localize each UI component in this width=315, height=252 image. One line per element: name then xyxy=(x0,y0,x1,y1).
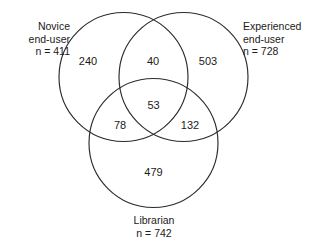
set-label-librarian: Librarian n = 742 xyxy=(113,214,195,239)
set-label-novice-name: Novice xyxy=(8,20,70,33)
count-librarian-only: 479 xyxy=(144,167,162,178)
count-novice-only: 240 xyxy=(79,56,97,67)
set-label-experienced-total: n = 728 xyxy=(243,45,313,58)
venn-diagram-figure: 240 40 503 53 78 132 479 Novice end-user… xyxy=(0,0,315,252)
set-label-experienced-role: end-user xyxy=(243,33,313,46)
count-experienced-librarian: 132 xyxy=(181,120,199,131)
set-label-librarian-total: n = 742 xyxy=(113,227,195,240)
count-experienced-only: 503 xyxy=(199,56,217,67)
set-label-librarian-name: Librarian xyxy=(113,214,195,227)
set-label-novice-total: n = 411 xyxy=(8,45,70,58)
set-label-novice: Novice end-user n = 411 xyxy=(8,20,70,58)
count-novice-experienced: 40 xyxy=(147,56,159,67)
set-label-experienced: Experienced end-user n = 728 xyxy=(243,20,313,58)
set-label-experienced-name: Experienced xyxy=(243,20,313,33)
count-novice-librarian: 78 xyxy=(114,120,126,131)
set-label-novice-role: end-user xyxy=(8,33,70,46)
count-all-three: 53 xyxy=(147,100,159,111)
